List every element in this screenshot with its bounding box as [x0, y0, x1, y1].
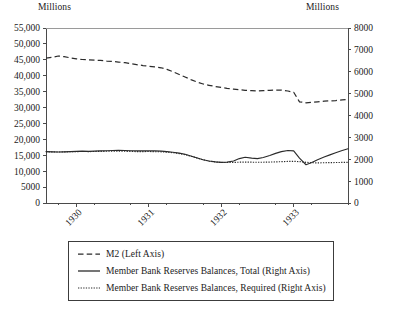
left-tick-label: 15,000: [14, 151, 40, 161]
left-tick-label: 5000: [21, 182, 40, 192]
left-tick-label: 50,000: [14, 39, 40, 49]
left-tick-label: 30,000: [14, 103, 40, 113]
right-tick-label: 4000: [354, 111, 373, 121]
left-tick-label: 10,000: [14, 167, 40, 177]
legend-item-reserves-required: Member Bank Reserves Balances, Required …: [78, 281, 326, 295]
left-axis-unit-label: Millions: [38, 2, 71, 12]
x-axis-ticks: 1930193119321933: [58, 203, 348, 228]
left-tick-label: 55,000: [14, 23, 40, 33]
left-tick-label: 0: [35, 198, 40, 208]
left-tick-label: 25,000: [14, 119, 40, 129]
left-tick-label: 20,000: [14, 135, 40, 145]
right-tick-label: 8000: [354, 23, 373, 33]
x-tick-label: 1933: [281, 207, 302, 228]
x-tick-label: 1932: [208, 207, 229, 228]
legend-swatch-dotted: [78, 283, 100, 293]
x-tick-label: 1931: [136, 207, 157, 228]
legend-item-reserves-total: Member Bank Reserves Balances, Total (Ri…: [78, 264, 310, 278]
right-tick-label: 2000: [354, 155, 373, 165]
left-tick-label: 40,000: [14, 71, 40, 81]
legend-item-m2: M2 (Left Axis): [78, 247, 164, 261]
right-axis-ticks: 010002000300040005000600070008000: [348, 23, 373, 208]
axes-layer: [46, 28, 348, 203]
left-axis-ticks: 0500010,00015,00020,00025,00030,00035,00…: [14, 23, 46, 208]
right-axis-unit-label: Millions: [306, 2, 339, 12]
right-tick-label: 6000: [354, 67, 373, 77]
right-tick-label: 5000: [354, 89, 373, 99]
right-tick-label: 1000: [354, 177, 373, 187]
right-tick-label: 3000: [354, 133, 373, 143]
right-tick-label: 0: [354, 198, 359, 208]
left-tick-label: 35,000: [14, 87, 40, 97]
x-tick-label: 1930: [63, 207, 84, 228]
legend-swatch-solid: [78, 266, 100, 276]
legend-label-m2: M2 (Left Axis): [106, 249, 164, 259]
legend-label-reserves-required: Member Bank Reserves Balances, Required …: [106, 283, 326, 293]
series-line: [46, 56, 348, 103]
legend-swatch-dashed: [78, 249, 100, 259]
chart-figure: Millions Millions 0500010,00015,00020,00…: [0, 0, 395, 313]
plot-area: 0500010,00015,00020,00025,00030,00035,00…: [0, 0, 395, 240]
series-layer: [46, 56, 348, 165]
right-tick-label: 7000: [354, 45, 373, 55]
chart-legend: M2 (Left Axis) Member Bank Reserves Bala…: [68, 241, 334, 301]
left-tick-label: 45,000: [14, 55, 40, 65]
legend-label-reserves-total: Member Bank Reserves Balances, Total (Ri…: [106, 266, 310, 276]
